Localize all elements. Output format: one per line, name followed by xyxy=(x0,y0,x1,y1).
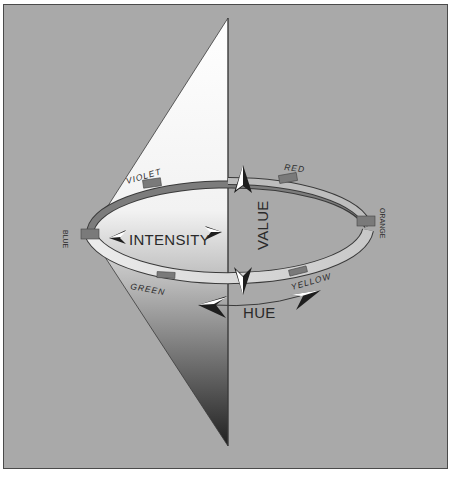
hue-right-arrow-icon xyxy=(290,290,321,310)
marker-green xyxy=(157,272,175,279)
intensity-label: INTENSITY xyxy=(129,231,210,248)
hue-label: HUE xyxy=(243,304,276,321)
color-solid-diagram: INTENSITY VALUE HUE VIOLET RED ORANGE BL… xyxy=(0,0,453,477)
marker-red xyxy=(278,172,297,183)
value-label: VALUE xyxy=(254,200,271,250)
hue-label-orange: ORANGE xyxy=(379,208,386,239)
marker-blue xyxy=(81,229,99,239)
hue-label-red: RED xyxy=(284,162,306,174)
marker-orange xyxy=(357,216,375,226)
hue-label-blue: BLUE xyxy=(62,230,69,249)
